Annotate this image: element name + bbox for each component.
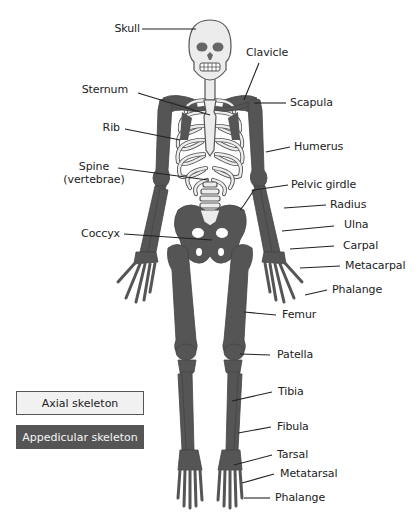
- legend-appendicular-skeleton: Appedicular skeleton: [16, 425, 144, 449]
- skeleton-diagram: .ax { fill: #ececec; stroke: #555; strok…: [0, 0, 420, 526]
- label-phalange-foot: Phalange: [275, 491, 325, 504]
- right-hand: [262, 252, 302, 302]
- label-spine-line2: (vertebrae): [62, 173, 126, 186]
- label-fibula: Fibula: [277, 420, 309, 433]
- label-scapula: Scapula: [290, 96, 333, 109]
- right-foot: [218, 450, 242, 508]
- label-tibia: Tibia: [278, 385, 304, 398]
- right-leg: [218, 244, 253, 508]
- label-metatarsal: Metatarsal: [280, 467, 337, 480]
- label-spine: Spine (vertebrae): [62, 160, 126, 186]
- label-radius: Radius: [330, 198, 366, 211]
- label-clavicle: Clavicle: [246, 46, 288, 59]
- label-sternum: Sternum: [78, 83, 128, 96]
- label-spine-line1: Spine: [62, 160, 126, 173]
- label-carpal: Carpal: [343, 239, 378, 252]
- label-metacarpal: Metacarpal: [345, 259, 405, 272]
- label-tarsal: Tarsal: [277, 448, 308, 461]
- label-phalange-hand: Phalange: [332, 283, 382, 296]
- left-leg: [168, 244, 203, 508]
- legend-axial-skeleton: Axial skeleton: [16, 391, 144, 415]
- left-foot: [178, 450, 202, 508]
- label-skull: Skull: [94, 22, 140, 35]
- label-femur: Femur: [282, 308, 316, 321]
- label-patella: Patella: [277, 348, 313, 361]
- label-ulna: Ulna: [344, 218, 368, 231]
- sternum: [204, 100, 216, 156]
- label-pelvic-girdle: Pelvic girdle: [291, 178, 356, 191]
- label-rib: Rib: [90, 121, 120, 134]
- label-coccyx: Coccyx: [70, 227, 120, 240]
- label-humerus: Humerus: [294, 140, 343, 153]
- left-hand: [118, 252, 158, 302]
